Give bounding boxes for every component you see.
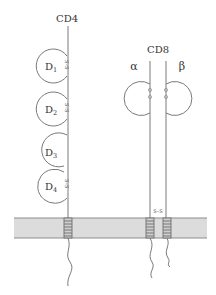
cd8-alpha-label: α: [130, 60, 138, 73]
cd4-domain-d1: D1 S–S: [36, 49, 70, 83]
cd4-cd8-diagram: CD4 D1 S–S D2 S–S D3: [0, 0, 216, 295]
cd8-beta-cytoplasmic-tail: [166, 238, 170, 267]
disulfide-bond-d4: S–S: [64, 179, 70, 189]
cd8-interchain-disulfide: S–S: [153, 208, 163, 214]
cd8-label: CD8: [147, 44, 169, 55]
disulfide-bond-d1: S–S: [64, 60, 70, 70]
cd8-molecule: CD8 α β S–S: [124, 44, 192, 278]
cd8-beta-chain: [164, 61, 191, 218]
cd8-alpha-transmembrane-helix: [146, 218, 154, 238]
cd4-domain-d3: D3: [42, 133, 67, 167]
cd4-label: CD4: [56, 13, 78, 24]
cd8-alpha-cytoplasmic-tail: [150, 238, 153, 278]
disulfide-bond-d2: S–S: [64, 103, 70, 113]
svg-text:D4: D4: [45, 181, 57, 194]
svg-text:D2: D2: [45, 104, 57, 117]
svg-text:D3: D3: [45, 147, 57, 160]
cd4-transmembrane-helix: [64, 218, 72, 238]
cd8-beta-transmembrane-helix: [163, 218, 171, 238]
svg-text:D1: D1: [45, 61, 57, 74]
cd4-molecule: CD4 D1 S–S D2 S–S D3: [36, 13, 78, 286]
cd4-domain-d4: D4 S–S: [38, 169, 70, 203]
cd8-beta-label: β: [179, 60, 185, 73]
cd8-alpha-chain: [124, 61, 151, 218]
cd4-cytoplasmic-tail: [68, 238, 72, 286]
plasma-membrane: [14, 218, 207, 238]
cd4-domain-d2: D2 S–S: [36, 92, 70, 126]
